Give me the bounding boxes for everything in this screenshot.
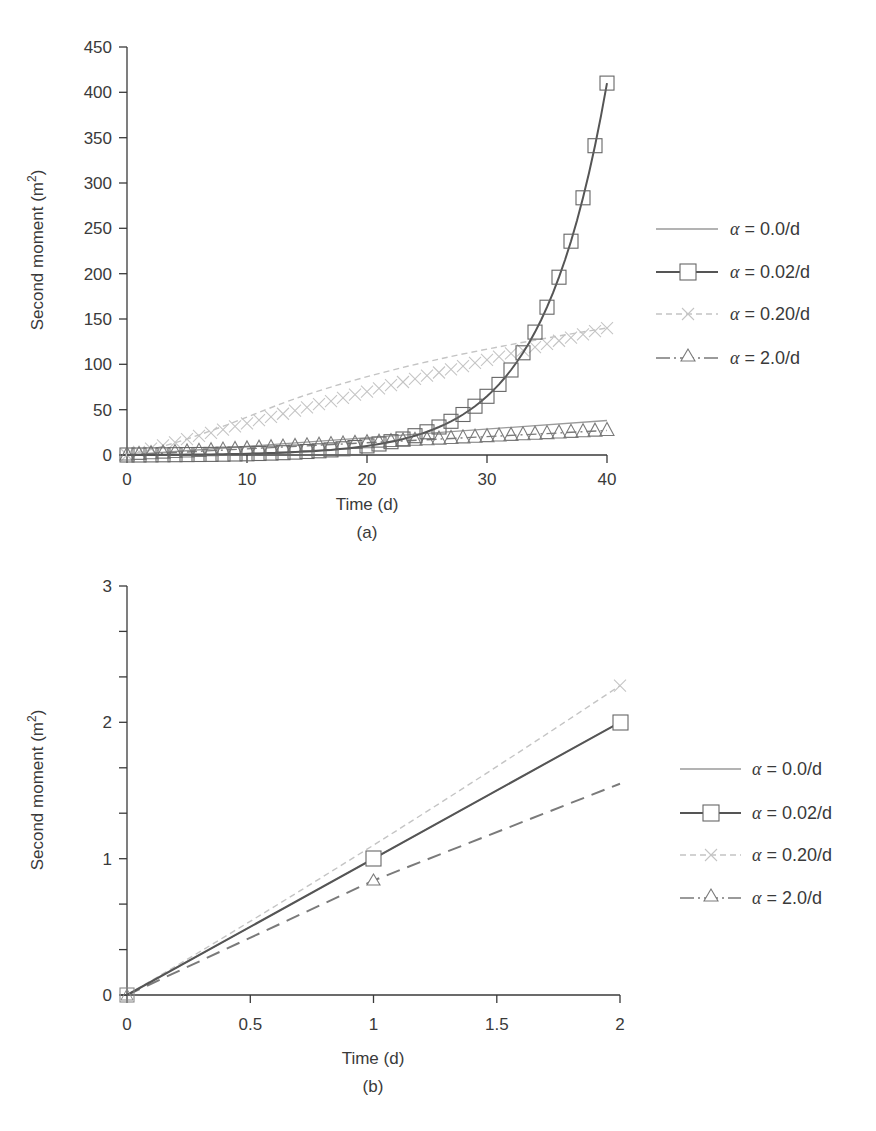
- square-marker-icon: [366, 851, 381, 866]
- x-tick-label: 1.5: [485, 1015, 509, 1034]
- legend-item-alpha-0: α = 0.0/d: [680, 759, 822, 779]
- y-tick-label: 0: [103, 446, 112, 465]
- svg-text:α = 2.0/d: α = 2.0/d: [730, 348, 800, 368]
- legend-item-alpha-0-20: α = 0.20/d: [680, 845, 832, 865]
- panel-b-x-axis-title: Time (d): [342, 1049, 405, 1068]
- x-tick-label: 40: [598, 470, 617, 489]
- svg-text:α = 0.0/d: α = 0.0/d: [752, 759, 822, 779]
- triangle-marker-icon: [492, 428, 506, 441]
- panel-a-caption: (a): [357, 523, 378, 542]
- x-tick-label: 20: [358, 470, 377, 489]
- square-marker-icon: [680, 264, 696, 280]
- triangle-marker-icon: [540, 426, 554, 439]
- panel-b-legend: α = 0.0/d α = 0.02/d α = 0.20/d α = 2.0/…: [680, 759, 832, 908]
- panel-a-axes: [119, 47, 607, 463]
- series-alpha-0-20: [127, 686, 620, 995]
- legend-item-alpha-2: α = 2.0/d: [656, 348, 800, 368]
- x-tick-label: 1: [369, 1015, 378, 1034]
- panel-a-plot-area: [120, 76, 614, 462]
- y-tick-label: 1: [103, 850, 112, 869]
- x-tick-label: 30: [478, 470, 497, 489]
- triangle-marker-icon: [681, 349, 695, 361]
- y-tick-label: 3: [103, 577, 112, 596]
- panel-b-plot-area: [120, 680, 628, 1002]
- triangle-marker-icon: [600, 423, 614, 436]
- y-tick-label: 2: [103, 713, 112, 732]
- panel-b-x-tick-labels: 0 0.5 1 1.5 2: [122, 1015, 624, 1034]
- y-tick-label: 50: [93, 401, 112, 420]
- series-alpha-0-02: [127, 83, 607, 455]
- panel-a-x-axis-title: Time (d): [336, 495, 399, 514]
- figure: 0 50 100 150 200 250 300 350 400 450 0 1…: [0, 0, 876, 1131]
- panel-a: 0 50 100 150 200 250 300 350 400 450 0 1…: [25, 38, 810, 542]
- panel-b: 0 1 2 3 0 0.5 1 1.5 2 Time (d) Second mo…: [25, 577, 832, 1096]
- svg-text:α = 0.02/d: α = 0.02/d: [730, 262, 810, 282]
- y-tick-label: 300: [84, 174, 112, 193]
- x-marker-icon: [614, 680, 626, 692]
- y-tick-label: 400: [84, 83, 112, 102]
- square-marker-icon: [703, 805, 719, 821]
- x-tick-label: 0: [122, 1015, 131, 1034]
- y-tick-label: 350: [84, 129, 112, 148]
- y-tick-label: 150: [84, 310, 112, 329]
- x-tick-label: 10: [238, 470, 257, 489]
- series-alpha-0-02-markers: [120, 76, 614, 462]
- y-tick-label: 200: [84, 265, 112, 284]
- series-alpha-0-20-markers: [121, 322, 613, 461]
- triangle-marker-icon: [468, 429, 482, 442]
- triangle-marker-icon: [516, 427, 530, 440]
- triangle-marker-icon: [480, 429, 494, 442]
- panel-b-y-axis-title: Second moment (m2): [25, 710, 47, 871]
- x-tick-label: 0: [122, 470, 131, 489]
- x-tick-label: 2: [615, 1015, 624, 1034]
- x-tick-label: 0.5: [238, 1015, 262, 1034]
- square-marker-icon: [613, 715, 628, 730]
- triangle-marker-icon: [704, 889, 718, 901]
- legend-item-alpha-0-02: α = 0.02/d: [680, 803, 832, 823]
- triangle-marker-icon: [528, 426, 542, 439]
- legend-item-alpha-0-20: α = 0.20/d: [656, 304, 810, 324]
- y-tick-label: 0: [103, 986, 112, 1005]
- svg-text:α = 0.02/d: α = 0.02/d: [752, 803, 832, 823]
- y-tick-label: 100: [84, 355, 112, 374]
- triangle-marker-icon: [588, 423, 602, 436]
- triangle-marker-icon: [576, 424, 590, 437]
- triangle-marker-icon: [564, 424, 578, 437]
- panel-a-legend: α = 0.0/d α = 0.02/d α = 0.20/d α = 2.0/…: [656, 219, 810, 368]
- panel-b-y-tick-labels: 0 1 2 3: [103, 577, 112, 1005]
- panel-a-x-tick-labels: 0 10 20 30 40: [122, 470, 616, 489]
- legend-item-alpha-2: α = 2.0/d: [680, 888, 822, 908]
- panel-a-y-tick-labels: 0 50 100 150 200 250 300 350 400 450: [84, 38, 112, 465]
- svg-text:α = 0.0/d: α = 0.0/d: [730, 219, 800, 239]
- triangle-marker-icon: [552, 425, 566, 438]
- y-tick-label: 450: [84, 38, 112, 57]
- panel-b-axes: [119, 586, 620, 1003]
- legend-item-alpha-0: α = 0.0/d: [656, 219, 800, 239]
- svg-text:α = 0.20/d: α = 0.20/d: [730, 304, 810, 324]
- legend-item-alpha-0-02: α = 0.02/d: [656, 262, 810, 282]
- series-alpha-2: [127, 784, 620, 995]
- panel-a-y-axis-title: Second moment (m2): [25, 170, 47, 331]
- svg-text:α = 2.0/d: α = 2.0/d: [752, 888, 822, 908]
- x-marker-icon: [682, 308, 694, 320]
- triangle-marker-icon: [504, 427, 518, 440]
- y-tick-label: 250: [84, 219, 112, 238]
- panel-b-caption: (b): [363, 1077, 384, 1096]
- svg-text:α = 0.20/d: α = 0.20/d: [752, 845, 832, 865]
